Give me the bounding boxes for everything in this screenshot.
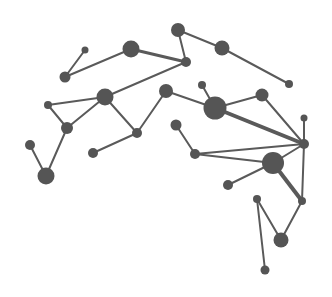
node-R [256, 89, 269, 102]
node-W [262, 152, 284, 174]
node-K [25, 140, 35, 150]
node-AA [274, 233, 289, 248]
node-M [132, 128, 142, 138]
edge-H-D [105, 62, 186, 97]
node-V [190, 149, 200, 159]
node-D [181, 57, 191, 67]
node-G [60, 72, 71, 83]
node-H [97, 89, 114, 106]
node-Y [253, 195, 261, 203]
node-P [198, 81, 206, 89]
node-J [61, 122, 73, 134]
network-diagram [0, 0, 332, 297]
node-L [38, 168, 55, 185]
node-T [299, 139, 309, 149]
node-Z [298, 197, 306, 205]
edge-B-C [222, 48, 289, 84]
node-A [171, 23, 185, 37]
network-graph-svg [0, 0, 332, 297]
node-E [123, 41, 140, 58]
edge-Q-T [215, 108, 304, 144]
edge-V-W [195, 154, 273, 163]
node-O [159, 84, 173, 98]
node-N [88, 148, 98, 158]
node-C [285, 80, 293, 88]
edge-N-M [93, 133, 137, 153]
node-I [44, 101, 52, 109]
node-U [171, 120, 182, 131]
node-layer [25, 23, 309, 275]
node-B [215, 41, 230, 56]
edge-T-Z [302, 144, 304, 201]
node-Q [204, 97, 227, 120]
node-AB [261, 266, 270, 275]
edge-layer [30, 30, 304, 270]
edge-V-T [195, 144, 304, 154]
node-F [82, 47, 89, 54]
node-X [223, 180, 233, 190]
node-S [301, 115, 308, 122]
edge-M-O [137, 91, 166, 133]
